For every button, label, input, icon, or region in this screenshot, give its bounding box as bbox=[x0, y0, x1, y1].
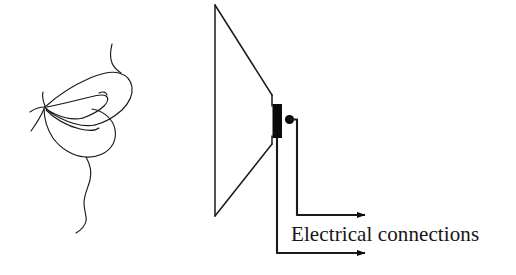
moth-tail-curl bbox=[76, 157, 91, 233]
voice-coil bbox=[273, 104, 283, 138]
moth-antenna-icon bbox=[111, 44, 122, 73]
loudspeaker-cone bbox=[215, 5, 294, 216]
lower-connection-wire bbox=[277, 138, 365, 253]
speaker-cone-top-diagonal bbox=[215, 5, 272, 95]
upper-connection-wire bbox=[290, 120, 366, 216]
moth-leg-upper bbox=[43, 92, 45, 106]
figure-container: Electrical connections bbox=[0, 0, 516, 275]
moth-drawing bbox=[30, 44, 132, 233]
electrical-wires bbox=[277, 120, 365, 254]
speaker-cone-bottom-diagonal bbox=[215, 144, 272, 216]
moth-leg-lower bbox=[31, 109, 44, 131]
figure-drawing bbox=[0, 0, 516, 275]
